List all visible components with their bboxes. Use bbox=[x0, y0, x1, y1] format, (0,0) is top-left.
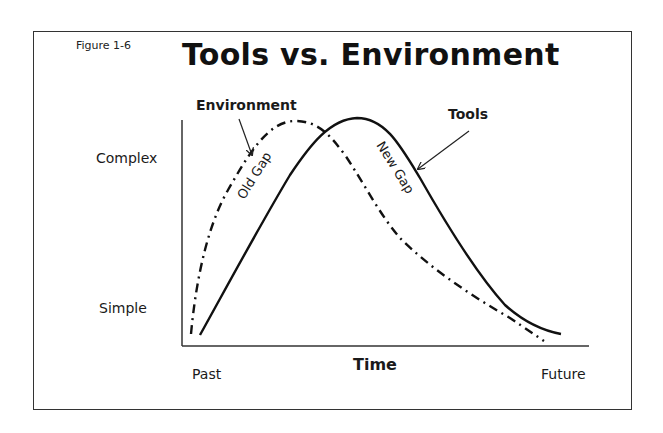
x-axis-end-label: Future bbox=[541, 366, 586, 382]
x-axis-start-label: Past bbox=[192, 366, 221, 382]
environment-label: Environment bbox=[196, 97, 297, 113]
tools-label: Tools bbox=[448, 106, 488, 122]
tools-arrow bbox=[418, 131, 469, 169]
x-axis-title: Time bbox=[353, 355, 397, 374]
environment-curve bbox=[191, 121, 544, 341]
environment-arrow bbox=[239, 119, 252, 155]
y-axis-low-label: Simple bbox=[99, 300, 147, 316]
y-axis-high-label: Complex bbox=[96, 150, 157, 166]
